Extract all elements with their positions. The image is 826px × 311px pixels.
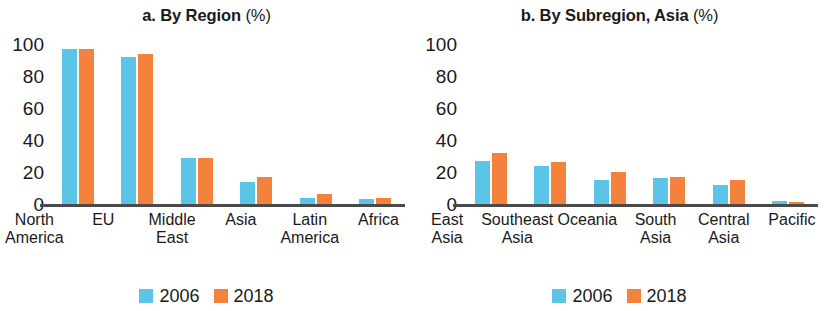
x-axis-label: East Asia xyxy=(413,211,481,247)
bar xyxy=(138,54,153,204)
legend-swatch-2006 xyxy=(552,289,566,303)
bar-group xyxy=(227,177,287,204)
panel-a-x-axis-labels: North AmericaEUMiddle EastAsiaLatin Amer… xyxy=(0,211,413,247)
bar-group xyxy=(48,49,108,204)
x-axis-label: Africa xyxy=(344,211,413,247)
panel-b-bar-groups xyxy=(461,44,818,204)
bar xyxy=(492,153,507,204)
panel-b-ytick-40: 40 xyxy=(436,131,457,150)
x-axis-label: Middle East xyxy=(138,211,207,247)
legend-label-2018: 2018 xyxy=(647,287,687,305)
bar xyxy=(79,49,94,204)
panel-b-title: b. By Subregion, Asia (%) xyxy=(413,0,826,26)
legend-swatch-2018 xyxy=(627,289,641,303)
bar-group xyxy=(699,180,759,204)
panel-a-legend: 20062018 xyxy=(0,287,413,305)
panel-a-plot-area: 020406080100 North AmericaEUMiddle EastA… xyxy=(0,26,413,266)
panel-b-title-main: b. By Subregion, Asia xyxy=(521,6,689,24)
panel-b-axis-line xyxy=(453,204,818,207)
panel-a-by-region: a. By Region (%) 020406080100 North Amer… xyxy=(0,0,413,311)
legend-item-2006[interactable]: 2006 xyxy=(139,287,199,305)
bar xyxy=(257,177,272,204)
panel-b-axes: 020406080100 East AsiaSoutheast AsiaOcea… xyxy=(413,26,826,266)
x-axis-label: Pacific xyxy=(758,211,826,247)
legend-item-2018[interactable]: 2018 xyxy=(214,287,274,305)
bar xyxy=(611,172,626,204)
panel-a-bar-groups xyxy=(48,44,405,204)
bar xyxy=(121,57,136,204)
panel-b-ytick-80: 80 xyxy=(436,67,457,86)
bar xyxy=(551,162,566,204)
bar xyxy=(730,180,745,204)
panel-a-title-main: a. By Region xyxy=(142,6,241,24)
panel-b-ytick-60: 60 xyxy=(436,99,457,118)
bar xyxy=(534,166,549,204)
bar-group xyxy=(521,162,581,204)
panel-a-axes: 020406080100 North AmericaEUMiddle EastA… xyxy=(0,26,413,266)
bar xyxy=(594,180,609,204)
panel-b-x-axis-labels: East AsiaSoutheast AsiaOceaniaSouth Asia… xyxy=(413,211,826,247)
bar-group xyxy=(640,177,700,204)
figure-two-panel-bar-charts: a. By Region (%) 020406080100 North Amer… xyxy=(0,0,826,311)
panel-a-axis-line xyxy=(40,204,405,207)
bar-group xyxy=(286,194,346,204)
panel-a-ytick-20: 20 xyxy=(23,163,44,182)
panel-a-ytick-40: 40 xyxy=(23,131,44,150)
bar xyxy=(181,158,196,204)
bar-group xyxy=(461,153,521,204)
bar xyxy=(198,158,213,204)
x-axis-label: Oceania xyxy=(553,211,621,247)
bar xyxy=(62,49,77,204)
panel-a-ytick-60: 60 xyxy=(23,99,44,118)
legend-label-2006: 2006 xyxy=(572,287,612,305)
legend-label-2018: 2018 xyxy=(234,287,274,305)
legend-item-2006[interactable]: 2006 xyxy=(552,287,612,305)
panel-b-plot-area: 020406080100 East AsiaSoutheast AsiaOcea… xyxy=(413,26,826,266)
bar xyxy=(240,182,255,204)
panel-b-ytick-100: 100 xyxy=(425,35,457,54)
bar-group xyxy=(580,172,640,204)
bar-group xyxy=(167,158,227,204)
bar xyxy=(317,194,332,204)
x-axis-label: Asia xyxy=(206,211,275,247)
panel-a-ytick-100: 100 xyxy=(12,35,44,54)
x-axis-label: North America xyxy=(0,211,69,247)
panel-b-by-subregion-asia: b. By Subregion, Asia (%) 020406080100 E… xyxy=(413,0,826,311)
x-axis-label: EU xyxy=(69,211,138,247)
x-axis-label: Central Asia xyxy=(690,211,758,247)
bar xyxy=(653,178,668,204)
x-axis-label: Latin America xyxy=(275,211,344,247)
x-axis-label: South Asia xyxy=(621,211,689,247)
x-axis-label: Southeast Asia xyxy=(481,211,553,247)
legend-item-2018[interactable]: 2018 xyxy=(627,287,687,305)
bar xyxy=(670,177,685,204)
panel-a-ytick-80: 80 xyxy=(23,67,44,86)
legend-swatch-2006 xyxy=(139,289,153,303)
legend-swatch-2018 xyxy=(214,289,228,303)
bar xyxy=(713,185,728,204)
legend-label-2006: 2006 xyxy=(159,287,199,305)
bar-group xyxy=(108,54,168,204)
bar xyxy=(475,161,490,204)
panel-b-title-unit: (%) xyxy=(693,6,718,24)
panel-b-legend: 20062018 xyxy=(413,287,826,305)
panel-a-title-unit: (%) xyxy=(245,6,270,24)
panel-a-title: a. By Region (%) xyxy=(0,0,413,26)
panel-b-ytick-20: 20 xyxy=(436,163,457,182)
